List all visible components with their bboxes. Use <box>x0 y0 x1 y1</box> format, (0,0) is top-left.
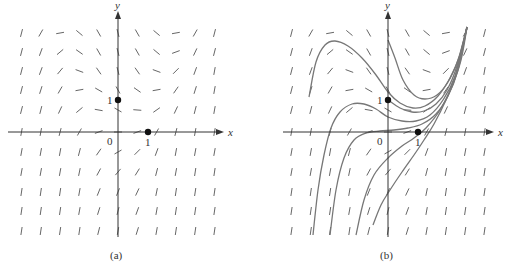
slope-segment <box>346 50 353 55</box>
slope-segment <box>214 207 215 215</box>
slope-segment <box>175 148 176 156</box>
slope-segment <box>366 149 371 156</box>
x-axis-label-a: x <box>227 126 233 138</box>
slope-segment <box>484 48 486 56</box>
slope-segment <box>405 149 411 155</box>
slope-segment <box>291 207 292 215</box>
slope-segment <box>444 106 447 113</box>
slope-segment <box>175 207 176 215</box>
direction-field-figure: x y 0 1 1 (a) x y 0 1 1 (b) <box>0 0 517 273</box>
slope-segment <box>136 188 139 195</box>
slope-segment <box>78 148 80 156</box>
slope-segment <box>155 148 158 156</box>
slope-segment <box>60 188 61 196</box>
slope-segment <box>76 70 84 73</box>
origin-label-b: 0 <box>377 135 383 147</box>
slope-segment <box>39 67 42 75</box>
slope-segment <box>214 227 215 235</box>
slope-segment <box>310 106 312 114</box>
slope-segment <box>175 188 176 196</box>
slope-segment <box>346 30 352 35</box>
solution-curve <box>313 27 467 235</box>
slope-segment <box>195 227 196 235</box>
slope-segment <box>291 48 293 56</box>
slope-segment <box>40 188 41 196</box>
slope-segment <box>195 168 196 176</box>
slope-segment <box>327 49 333 54</box>
slope-segment <box>330 207 331 215</box>
slope-segment <box>445 168 446 176</box>
slope-segment <box>465 207 466 215</box>
solution-curve <box>373 27 467 225</box>
slope-segment <box>309 67 312 75</box>
slope-segment <box>174 87 179 94</box>
slope-segment <box>97 49 101 56</box>
slope-segment <box>464 106 466 114</box>
slope-segment <box>194 48 197 55</box>
slope-segment <box>57 49 63 54</box>
slope-segment <box>21 227 22 235</box>
slope-segment <box>329 148 330 156</box>
slope-segment <box>95 88 102 92</box>
slope-segment <box>405 49 409 56</box>
slope-segment <box>328 68 333 74</box>
slope-segment <box>406 207 409 215</box>
slope-segment <box>368 207 370 215</box>
slope-segment <box>423 89 431 90</box>
slope-segment <box>328 87 332 94</box>
slope-segment <box>39 48 42 56</box>
x-axis-label-b: x <box>497 126 503 138</box>
slope-segment <box>214 106 215 114</box>
slope-segment <box>214 86 215 94</box>
slope-segment <box>21 29 23 37</box>
slope-segment <box>135 30 139 37</box>
slope-segment <box>95 109 103 110</box>
slope-segment <box>40 168 41 176</box>
slope-segment <box>484 67 485 75</box>
slope-segment <box>309 48 312 56</box>
slope-segment <box>310 188 311 196</box>
slope-segment <box>156 227 157 235</box>
y-axis-arrow-icon <box>115 11 121 19</box>
slope-segment <box>484 207 485 215</box>
slope-segment <box>426 188 428 196</box>
slope-segment <box>406 188 409 195</box>
slope-segment <box>98 227 100 235</box>
slope-segment <box>365 109 373 110</box>
slope-segment <box>291 29 293 37</box>
slope-segment <box>135 169 139 176</box>
slope-segment <box>310 148 311 156</box>
slope-segment <box>79 168 81 176</box>
slope-segment <box>59 148 60 156</box>
slope-segment <box>465 188 466 196</box>
slope-segment <box>173 68 179 74</box>
slope-segment <box>40 86 42 94</box>
slope-segment <box>445 188 446 196</box>
slope-segment <box>136 207 139 215</box>
panel-label-a: (a) <box>110 249 123 262</box>
slope-segment <box>405 68 410 75</box>
slope-segment <box>58 106 61 113</box>
slope-segment <box>465 148 466 156</box>
slope-segment <box>405 169 409 176</box>
slope-segment <box>484 148 485 156</box>
slope-segment <box>154 49 160 54</box>
slope-segment <box>349 207 350 215</box>
slope-segment <box>291 188 292 196</box>
slope-segment <box>442 32 450 33</box>
slope-segment <box>214 168 215 176</box>
slope-segment <box>97 30 101 37</box>
slope-segment <box>97 169 101 176</box>
slope-segment <box>405 30 409 37</box>
slope-segment <box>172 51 180 54</box>
x-tick-one-a: 1 <box>145 136 151 148</box>
y-axis-arrow-icon <box>385 11 391 19</box>
slope-segment <box>156 188 158 196</box>
slope-segment <box>98 207 100 215</box>
slope-segment <box>484 188 485 196</box>
slope-segment <box>58 68 63 74</box>
slope-segment <box>367 49 371 56</box>
point-1-0-b <box>415 129 421 135</box>
slope-segment <box>59 168 60 176</box>
slope-segment <box>445 148 446 156</box>
